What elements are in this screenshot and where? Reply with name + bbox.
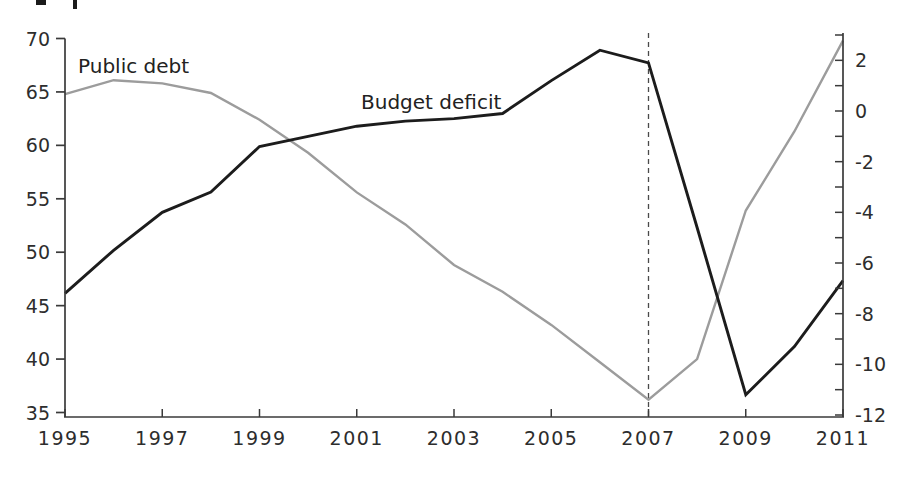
right-axis-tick-label: -2 bbox=[855, 151, 874, 173]
x-axis-tick-label: 1995 bbox=[38, 427, 92, 449]
left-axis-tick-label: 65 bbox=[26, 81, 50, 103]
left-axis-tick-label: 70 bbox=[26, 28, 50, 50]
x-axis-tick-label: 2003 bbox=[427, 427, 481, 449]
x-axis-tick-label: 2007 bbox=[621, 427, 675, 449]
x-axis-tick-label: 1997 bbox=[135, 427, 189, 449]
left-axis-tick-label: 40 bbox=[26, 348, 50, 370]
cropped-text-artifact bbox=[73, 0, 77, 9]
right-axis-tick-label: 0 bbox=[855, 100, 867, 122]
left-axis-tick-label: 60 bbox=[26, 134, 50, 156]
x-axis-tick-label: 2005 bbox=[524, 427, 578, 449]
budget-deficit-series-label: Budget deficit bbox=[361, 90, 501, 114]
right-axis-tick-label: -12 bbox=[855, 404, 886, 426]
x-axis-tick-label: 2011 bbox=[816, 427, 870, 449]
right-axis-tick-label: 2 bbox=[855, 49, 867, 71]
cropped-text-artifact bbox=[36, 0, 46, 5]
left-axis-tick-label: 55 bbox=[26, 188, 50, 210]
x-axis-tick-label: 2001 bbox=[330, 427, 384, 449]
right-axis-tick-label: -8 bbox=[855, 303, 874, 325]
line-chart-canvas: 706560555045403520-2-4-6-8-10-1219951997… bbox=[0, 0, 908, 482]
left-axis-tick-label: 45 bbox=[26, 295, 50, 317]
right-axis-tick-label: -10 bbox=[855, 353, 886, 375]
x-axis-tick-label: 1999 bbox=[232, 427, 286, 449]
right-axis-tick-label: -6 bbox=[855, 252, 874, 274]
right-axis-tick-label: -4 bbox=[855, 201, 874, 223]
left-axis-tick-label: 35 bbox=[26, 402, 50, 424]
public-debt-series-label: Public debt bbox=[78, 54, 189, 78]
x-axis-tick-label: 2009 bbox=[719, 427, 773, 449]
left-axis-tick-label: 50 bbox=[26, 241, 50, 263]
chart: 706560555045403520-2-4-6-8-10-1219951997… bbox=[0, 0, 908, 482]
